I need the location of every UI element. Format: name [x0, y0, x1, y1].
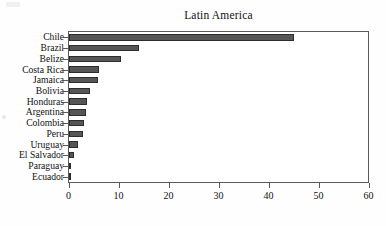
bar-fill: [69, 109, 86, 116]
bar-fill: [69, 141, 78, 148]
bar-fill: [69, 56, 121, 63]
x-axis-label-0: 0: [49, 190, 89, 201]
x-axis-tick-50: [319, 183, 320, 188]
y-axis-label-belize: Belize: [0, 54, 64, 64]
bar-chile: [69, 34, 369, 41]
bar-belize: [69, 56, 369, 63]
y-axis-label-chile: Chile: [0, 32, 64, 42]
y-axis-tick: [63, 112, 68, 113]
bar-jamaica: [69, 77, 369, 84]
y-axis-category-labels: ChileBrazilBelizeCosta RicaJamaicaBolivi…: [0, 32, 64, 182]
y-axis-tick: [63, 155, 68, 156]
bar-fill: [69, 88, 90, 95]
bar-fill: [69, 66, 99, 73]
bar-argentina: [69, 109, 369, 116]
chart-figure: Latin America ChileBrazilBelizeCosta Ric…: [0, 0, 386, 226]
x-axis-tick-60: [369, 183, 370, 188]
x-axis-label-50: 50: [299, 190, 339, 201]
bar-uruguay: [69, 141, 369, 148]
y-axis-tick: [63, 91, 68, 92]
x-axis-label-40: 40: [249, 190, 289, 201]
x-axis-tick-30: [219, 183, 220, 188]
bar-costa-rica: [69, 66, 369, 73]
bar-peru: [69, 131, 369, 138]
x-axis-tick-0: [69, 183, 70, 188]
y-axis-label-ecuador: Ecuador: [0, 172, 64, 182]
y-axis-label-colombia: Colombia: [0, 118, 64, 128]
y-axis-tick: [63, 134, 68, 135]
y-axis-label-paraguay: Paraguay: [0, 161, 64, 171]
y-axis-label-el-salvador: El Salvador: [0, 150, 64, 160]
bar-el-salvador: [69, 152, 369, 159]
y-axis-label-costa-rica: Costa Rica: [0, 65, 64, 75]
y-axis-label-uruguay: Uruguay: [0, 140, 64, 150]
y-axis-tick: [63, 48, 68, 49]
y-axis-label-bolivia: Bolivia: [0, 86, 64, 96]
x-axis: 0102030405060: [0, 183, 386, 213]
bar-fill: [69, 131, 83, 138]
y-axis-tick: [63, 70, 68, 71]
y-axis-tick: [63, 145, 68, 146]
x-axis-tick-10: [119, 183, 120, 188]
bar-fill: [69, 98, 87, 105]
y-axis-label-peru: Peru: [0, 129, 64, 139]
bar-paraguay: [69, 163, 369, 170]
bar-bolivia: [69, 88, 369, 95]
y-axis-tick: [63, 166, 68, 167]
x-axis-tick-20: [169, 183, 170, 188]
x-axis-tick-40: [269, 183, 270, 188]
y-axis-label-brazil: Brazil: [0, 43, 64, 53]
y-axis-tick: [63, 59, 68, 60]
bar-brazil: [69, 45, 369, 52]
bar-ecuador: [69, 173, 369, 180]
bar-honduras: [69, 98, 369, 105]
y-axis-tick: [63, 177, 68, 178]
bar-colombia: [69, 120, 369, 127]
y-axis-label-honduras: Honduras: [0, 97, 64, 107]
bar-fill: [69, 152, 74, 159]
bar-fill: [69, 45, 139, 52]
chart-title: Latin America: [68, 9, 369, 21]
scan-artifact: [6, 2, 20, 7]
x-axis-label-20: 20: [149, 190, 189, 201]
bar-fill: [69, 173, 71, 180]
y-axis-tick: [63, 102, 68, 103]
bar-fill: [69, 77, 98, 84]
y-axis-tick: [63, 80, 68, 81]
bar-fill: [69, 163, 71, 170]
y-axis-tick: [63, 123, 68, 124]
y-axis-label-jamaica: Jamaica: [0, 75, 64, 85]
y-axis-tick: [63, 37, 68, 38]
x-axis-label-60: 60: [349, 190, 386, 201]
bar-fill: [69, 34, 294, 41]
x-axis-label-30: 30: [199, 190, 239, 201]
bar-fill: [69, 120, 84, 127]
bars-layer: [69, 32, 369, 182]
y-axis-label-argentina: Argentina: [0, 107, 64, 117]
x-axis-label-10: 10: [99, 190, 139, 201]
